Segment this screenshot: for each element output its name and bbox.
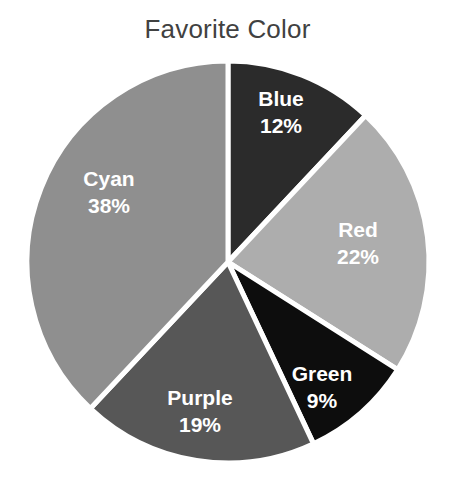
slice-label-value-cyan: 38% [88, 194, 130, 217]
pie-chart-svg: Blue12%Red22%Green9%Purple19%Cyan38% [0, 0, 455, 487]
slice-label-name-blue: Blue [258, 87, 304, 110]
slice-label-name-red: Red [338, 218, 378, 241]
pie-chart-figure: Favorite Color Blue12%Red22%Green9%Purpl… [0, 0, 455, 487]
slice-label-value-purple: 19% [179, 413, 221, 436]
slice-label-name-cyan: Cyan [83, 167, 134, 190]
slice-label-value-blue: 12% [260, 114, 302, 137]
slice-label-name-green: Green [292, 362, 353, 385]
slice-label-value-red: 22% [337, 245, 379, 268]
slice-label-value-green: 9% [307, 389, 338, 412]
slice-label-name-purple: Purple [167, 386, 232, 409]
